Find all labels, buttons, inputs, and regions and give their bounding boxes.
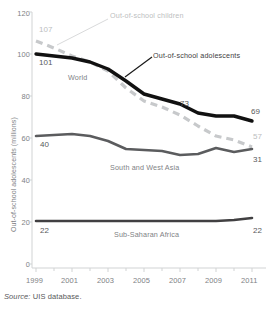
source-text: UIS database.	[31, 292, 82, 301]
data-label-ssafrica-start: 22	[40, 226, 49, 235]
annotation-out-of-school-children: Out-of-school children	[110, 11, 184, 20]
plot-area	[0, 0, 271, 309]
series-line-out-of-school-adolescents	[36, 54, 252, 121]
source-note: Source: UIS database.	[4, 292, 82, 301]
x-tick-marks	[36, 268, 252, 272]
leader-line-adolescents	[125, 57, 152, 77]
annotation-sub-saharan-africa: Sub-Saharan Africa	[114, 230, 179, 239]
annotation-world: World	[68, 73, 87, 82]
source-label: Source:	[4, 292, 31, 301]
data-label-adolescents-2007: 73	[180, 99, 189, 108]
data-label-adolescents-end: 69	[251, 107, 260, 116]
annotation-south-and-west-asia: South and West Asia	[110, 163, 179, 172]
annotation-out-of-school-adolescents: Out-of-school adolescents	[153, 51, 240, 60]
data-label-adolescents-start: 101	[39, 58, 53, 67]
data-label-swasia-start: 40	[40, 140, 49, 149]
y-tick-marks	[28, 12, 32, 264]
data-label-swasia-end: 31	[253, 155, 262, 164]
leader-line-children	[57, 19, 108, 45]
series-line-sub-saharan-africa	[36, 218, 252, 221]
chart-figure: Out-of-school adolescents (millions) 120…	[0, 0, 271, 309]
data-label-children-end: 57	[253, 132, 262, 141]
data-label-children-start: 107	[39, 25, 53, 34]
data-label-ssafrica-end: 22	[253, 226, 262, 235]
